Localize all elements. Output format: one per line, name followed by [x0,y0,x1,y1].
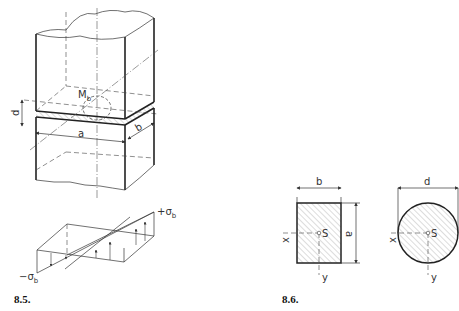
label-a: a [344,231,355,237]
top-break-line [36,10,154,34]
lower-hidden-left [36,152,66,170]
stress-pos-label: +σb [157,206,177,220]
stress-base-plane [37,224,154,262]
figure-8-5-beam: Mb d a b [10,8,158,200]
bottom-break-line [36,165,154,190]
label-b: b [316,176,322,187]
y-axis-label: y [431,272,437,283]
hidden-left-bottom [36,86,66,111]
label-d: d [424,176,430,187]
centroid-label: S [322,228,328,239]
label-a: a [78,128,84,139]
centroid-label: S [431,228,437,239]
top-front-break [36,18,154,39]
y-axis-label: y [322,272,328,283]
stress-neg-label: −σb [19,271,39,285]
x-axis-label: x [280,237,291,243]
stress-back-slope [67,212,154,255]
label-b: b [133,121,144,134]
x-axis-label: x [387,237,398,243]
diagram-canvas: Mb d a b +σb [0,0,459,311]
stress-distribution: +σb −σb [19,206,177,285]
figure-8-6-circle-section: d S x y [387,176,458,283]
moment-label: Mb [78,89,92,103]
lower-hidden [66,152,154,158]
figure-caption-8-5: 8.5. [14,293,31,305]
centroid-marker [317,231,321,235]
figure-8-6-rect-section: b a S x y [280,176,360,283]
figure-caption-8-6: 8.6. [282,293,299,305]
centroid-marker [426,231,430,235]
stress-front-slope [37,212,154,273]
label-d: d [10,110,21,116]
